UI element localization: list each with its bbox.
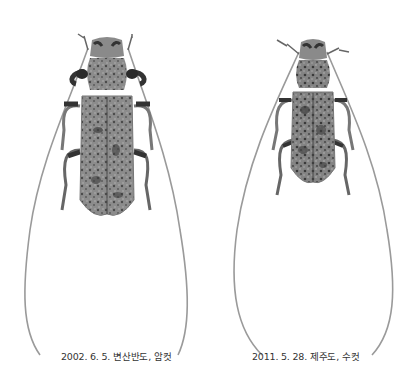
beetle-female-image — [0, 0, 207, 387]
beetle-male-image — [207, 0, 414, 387]
specimen-right: 2011. 5. 28. 제주도, 수컷 — [207, 0, 414, 387]
specimen-caption: 2002. 6. 5. 변산반도, 암컷 — [61, 349, 171, 363]
specimen-caption: 2011. 5. 28. 제주도, 수컷 — [252, 349, 359, 363]
left-antenna-icon — [25, 48, 88, 355]
right-antenna-icon — [128, 48, 187, 355]
left-antenna-icon — [234, 52, 299, 355]
specimen-plate: 2002. 6. 5. 변산반도, 암컷 — [0, 0, 414, 387]
right-antenna-icon — [327, 52, 393, 355]
specimen-left: 2002. 6. 5. 변산반도, 암컷 — [0, 0, 207, 387]
